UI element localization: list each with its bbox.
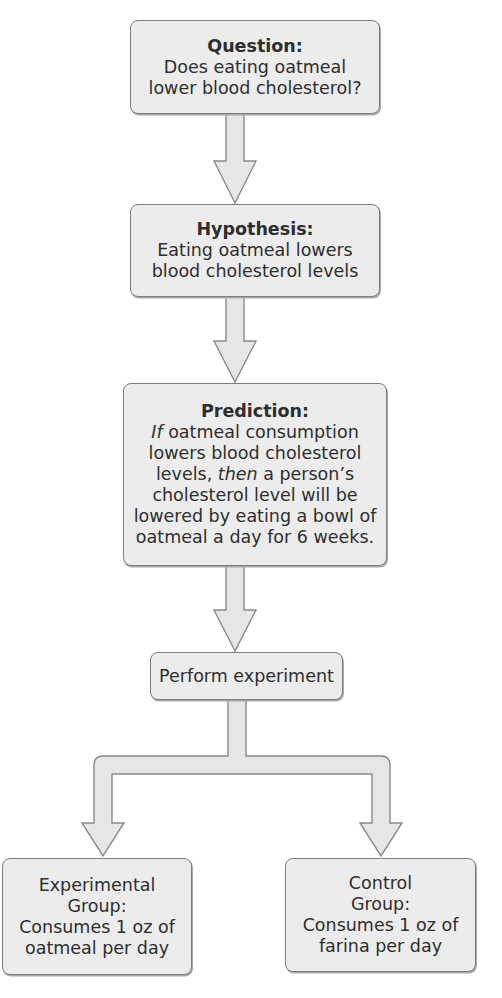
experimental-line-2: Group: bbox=[67, 896, 126, 917]
prediction-line-2: lowers blood cholesterol bbox=[149, 443, 362, 464]
prediction-line-3-pre: levels, bbox=[156, 464, 218, 484]
prediction-line-4: cholesterol level will be bbox=[152, 485, 357, 506]
prediction-line-1: If oatmeal consumption bbox=[151, 422, 358, 443]
arrow-question-to-hypothesis bbox=[214, 114, 256, 203]
question-box: Question: Does eating oatmeal lower bloo… bbox=[130, 20, 380, 114]
hypothesis-box: Hypothesis: Eating oatmeal lowers blood … bbox=[130, 204, 380, 297]
prediction-box: Prediction: If oatmeal consumption lower… bbox=[123, 383, 387, 566]
arrow-hypothesis-to-prediction bbox=[214, 297, 256, 382]
control-line-1: Control bbox=[349, 873, 412, 894]
prediction-line-3-rest: a person’s bbox=[258, 464, 355, 484]
control-group-box: Control Group: Consumes 1 oz of farina p… bbox=[285, 858, 476, 972]
experimental-line-1: Experimental bbox=[39, 875, 156, 896]
hypothesis-text-line-1: Eating oatmeal lowers bbox=[157, 240, 352, 261]
question-title: Question: bbox=[207, 36, 302, 57]
control-line-3: Consumes 1 oz of bbox=[303, 915, 459, 936]
experimental-line-3: Consumes 1 oz of bbox=[19, 917, 175, 938]
question-text-line-2: lower blood cholesterol? bbox=[149, 78, 362, 99]
arrow-prediction-to-perform bbox=[214, 566, 256, 651]
prediction-line-6: oatmeal a day for 6 weeks. bbox=[136, 527, 374, 548]
control-line-4: farina per day bbox=[319, 936, 442, 957]
perform-experiment-box: Perform experiment bbox=[150, 652, 343, 700]
arrow-perform-branch bbox=[82, 700, 402, 856]
perform-experiment-label: Perform experiment bbox=[159, 666, 334, 687]
prediction-line-5: lowered by eating a bowl of bbox=[134, 506, 377, 527]
prediction-title: Prediction: bbox=[201, 401, 309, 422]
prediction-line-1-rest: oatmeal consumption bbox=[163, 422, 359, 442]
experimental-group-box: Experimental Group: Consumes 1 oz of oat… bbox=[2, 858, 192, 975]
question-text-line-1: Does eating oatmeal bbox=[164, 57, 346, 78]
prediction-if: If bbox=[151, 422, 162, 442]
experimental-line-4: oatmeal per day bbox=[25, 938, 169, 959]
hypothesis-title: Hypothesis: bbox=[196, 219, 313, 240]
prediction-then: then bbox=[218, 464, 258, 484]
control-line-2: Group: bbox=[351, 894, 410, 915]
hypothesis-text-line-2: blood cholesterol levels bbox=[152, 261, 359, 282]
prediction-line-3: levels, then a person’s bbox=[156, 464, 354, 485]
